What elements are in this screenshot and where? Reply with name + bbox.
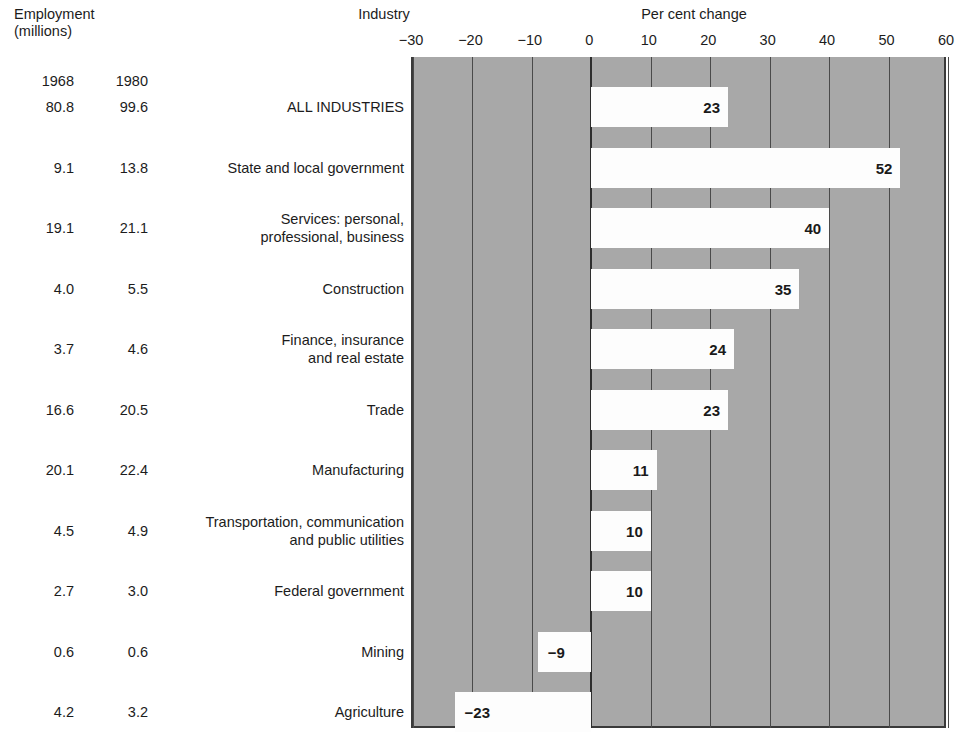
bar[interactable]: 52 — [591, 148, 900, 188]
x-tick-label--20: −20 — [458, 32, 483, 48]
employment-year-header-1968: 1968 — [12, 72, 74, 90]
x-tick-label-60: 60 — [938, 32, 954, 48]
bar-value-label: 10 — [626, 583, 643, 600]
bar[interactable]: 10 — [591, 511, 650, 551]
x-tick-label-0: 0 — [585, 32, 593, 48]
x-tick-label-50: 50 — [878, 32, 894, 48]
x-tick-label-10: 10 — [641, 32, 657, 48]
employment-1968-value: 2.7 — [12, 582, 74, 600]
bar[interactable]: 10 — [591, 571, 650, 611]
employment-1968-value: 0.6 — [12, 643, 74, 661]
employment-1980-value: 3.0 — [86, 582, 148, 600]
industry-column-header: Industry — [324, 6, 444, 22]
bar-value-label: 23 — [703, 99, 720, 116]
employment-1968-value: 4.0 — [12, 280, 74, 298]
employment-1980-value: 0.6 — [86, 643, 148, 661]
industry-category-label: Agriculture — [144, 703, 404, 721]
bar[interactable]: 35 — [591, 269, 799, 309]
employment-year-header-1980: 1980 — [86, 72, 148, 90]
employment-1980-value: 21.1 — [86, 219, 148, 237]
employment-1980-value: 22.4 — [86, 461, 148, 479]
bar[interactable]: 23 — [591, 390, 728, 430]
x-tick-label--10: −10 — [518, 32, 543, 48]
bar-value-label: 23 — [703, 401, 720, 418]
x-tick-label--30: −30 — [399, 32, 424, 48]
employment-1980-value: 13.8 — [86, 159, 148, 177]
industry-category-label: Trade — [144, 401, 404, 419]
industry-category-label: Transportation, communication and public… — [144, 513, 404, 549]
chart-title: Per cent change — [574, 6, 814, 22]
bar-value-label: 11 — [633, 462, 649, 479]
bar-value-label: 52 — [876, 159, 893, 176]
industry-category-label: Manufacturing — [144, 461, 404, 479]
bar[interactable]: −23 — [455, 692, 592, 732]
bar[interactable]: 24 — [591, 329, 734, 369]
industry-category-label: State and local government — [144, 159, 404, 177]
bar-value-label: −9 — [548, 643, 565, 660]
employment-1980-value: 99.6 — [86, 98, 148, 116]
x-tick-label-30: 30 — [760, 32, 776, 48]
employment-1968-value: 80.8 — [12, 98, 74, 116]
bar[interactable]: 23 — [591, 87, 728, 127]
employment-1980-value: 4.6 — [86, 340, 148, 358]
bar-value-label: 10 — [626, 522, 643, 539]
employment-1980-value: 3.2 — [86, 703, 148, 721]
industry-category-label: Construction — [144, 280, 404, 298]
plot-area: 235240352423111010−9−23 — [411, 57, 946, 728]
employment-1980-value: 4.9 — [86, 522, 148, 540]
gridline--10 — [532, 57, 533, 728]
bar-value-label: 24 — [709, 341, 726, 358]
employment-column-header: Employment (millions) — [14, 6, 95, 40]
bar-value-label: −23 — [465, 704, 490, 721]
gridline--20 — [472, 57, 473, 728]
employment-1968-value: 20.1 — [12, 461, 74, 479]
gridline-60 — [948, 57, 949, 728]
industry-category-label: Finance, insurance and real estate — [144, 331, 404, 367]
x-tick-label-20: 20 — [700, 32, 716, 48]
bar[interactable]: 40 — [591, 208, 829, 248]
bar[interactable]: 11 — [591, 450, 656, 490]
employment-1968-value: 9.1 — [12, 159, 74, 177]
gridline--30 — [413, 57, 414, 728]
employment-1980-value: 20.5 — [86, 401, 148, 419]
industry-category-label: Services: personal, professional, busine… — [144, 210, 404, 246]
bar-value-label: 35 — [775, 280, 792, 297]
industry-category-label: Mining — [144, 643, 404, 661]
industry-category-label: ALL INDUSTRIES — [144, 98, 404, 116]
employment-1968-value: 4.5 — [12, 522, 74, 540]
employment-1968-value: 16.6 — [12, 401, 74, 419]
employment-1968-value: 4.2 — [12, 703, 74, 721]
industry-category-label: Federal government — [144, 582, 404, 600]
bar[interactable]: −9 — [538, 632, 592, 672]
employment-1968-value: 19.1 — [12, 219, 74, 237]
bar-value-label: 40 — [804, 220, 821, 237]
employment-1968-value: 3.7 — [12, 340, 74, 358]
x-tick-label-40: 40 — [819, 32, 835, 48]
employment-1980-value: 5.5 — [86, 280, 148, 298]
